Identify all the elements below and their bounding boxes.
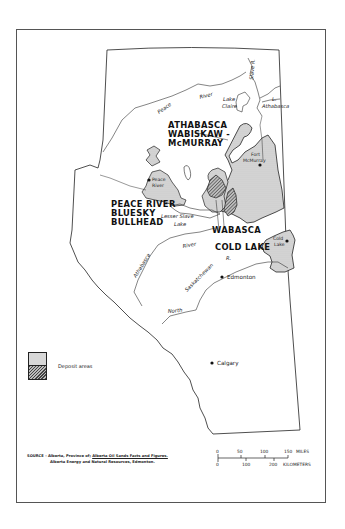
label-river-peace: River [199,90,214,99]
label-cold-lake-city-2: Lake [274,242,285,247]
label-peace-river-city-1: Peace [152,177,166,182]
peace-river-dot [147,178,150,181]
fort-mcmurray-dot [258,163,261,166]
scale-mi-100: 100 [260,449,269,454]
legend-swatch-hatched [28,366,47,380]
label-bullhead: BULLHEAD [111,217,163,227]
label-wabasca: WABASCA [212,225,261,235]
label-north: North [168,307,183,314]
scale-km-unit: KILOMETERS [283,462,311,467]
label-peace: Peace [156,101,172,115]
scale-mi-150: 150 [284,449,293,454]
edmonton-dot [220,275,223,278]
label-edmonton: Edmonton [227,274,256,280]
label-slave-r: Slave R. [248,59,256,81]
source-prefix: SOURCE - Alberta, Province of; [27,454,92,458]
label-calgary: Calgary [217,360,239,367]
label-fort-mcmurray-1: Fort [251,152,260,157]
label-lesser-slave-1: Lesser Slave [161,213,194,219]
calgary-dot [210,361,213,364]
source-title: Alberta Oil Sands Facts and Figures. [92,454,168,458]
alberta-map: ATHABASCA WABISKAW - McMURRAY PEACE RIVE… [0,0,345,529]
label-lesser-slave-2: Lake [174,221,186,227]
label-lake-claire-1: Lake [223,96,235,102]
scale-mi-0: 0 [216,449,219,454]
river-misc [100,175,146,190]
label-l-athabasca-1: L. [272,96,277,102]
label-fort-mcmurray-2: McMurray [243,158,266,163]
label-river-athabasca: River [182,241,197,249]
lake-athabasca [260,86,280,102]
label-cold-lake: COLD LAKE [215,242,270,252]
source-line2: Alberta Energy and Natural Resources, Ed… [27,460,168,466]
label-peace-river-city-2: River [152,183,164,188]
scale-miles-unit: MILES [296,449,309,454]
scale-mi-50: 50 [237,449,243,454]
scale-km-200: 200 [269,462,278,467]
source-citation: SOURCE - Alberta, Province of; Alberta O… [27,454,168,465]
cold-lake-dot [285,239,288,242]
label-l-athabasca-2: Athabasca [261,103,289,109]
deposit-peace-north [146,146,160,166]
legend-swatch-light [28,352,47,366]
north-saskatchewan-river [162,262,288,324]
lake-island [184,166,191,180]
label-lake-claire-2: Claire [222,103,237,109]
athabasca-river [134,228,215,306]
label-saskatchewan: Saskatchewan [183,262,214,293]
legend-label: Deposit areas [58,363,92,369]
lake-claire [236,92,250,112]
legend: Deposit areas [28,352,47,380]
scale-bar: 0 50 100 150 MILES 0 100 200 KILOMETERS [216,449,311,467]
label-cold-lake-city-1: Cold [273,236,283,241]
label-athabasca-river: Athabasca [131,252,151,279]
label-saskatchewan-r: R. [226,255,231,261]
scale-km-100: 100 [242,462,251,467]
label-mcmurray: McMURRAY [168,138,224,148]
scale-km-0: 0 [216,462,219,467]
